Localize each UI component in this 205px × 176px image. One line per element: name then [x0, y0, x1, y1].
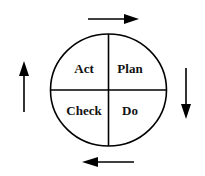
quadrant-check: Check	[66, 103, 102, 118]
arrow-right-icon	[88, 14, 139, 24]
quadrant-plan: Plan	[117, 61, 143, 76]
cycle-circle	[51, 34, 167, 146]
quadrant-act: Act	[74, 61, 94, 76]
arrow-up-icon	[19, 61, 29, 112]
pdca-diagram: Act Plan Check Do	[0, 0, 205, 176]
quadrant-do: Do	[122, 103, 138, 118]
arrow-left-icon	[82, 157, 134, 167]
arrow-down-icon	[181, 68, 191, 119]
